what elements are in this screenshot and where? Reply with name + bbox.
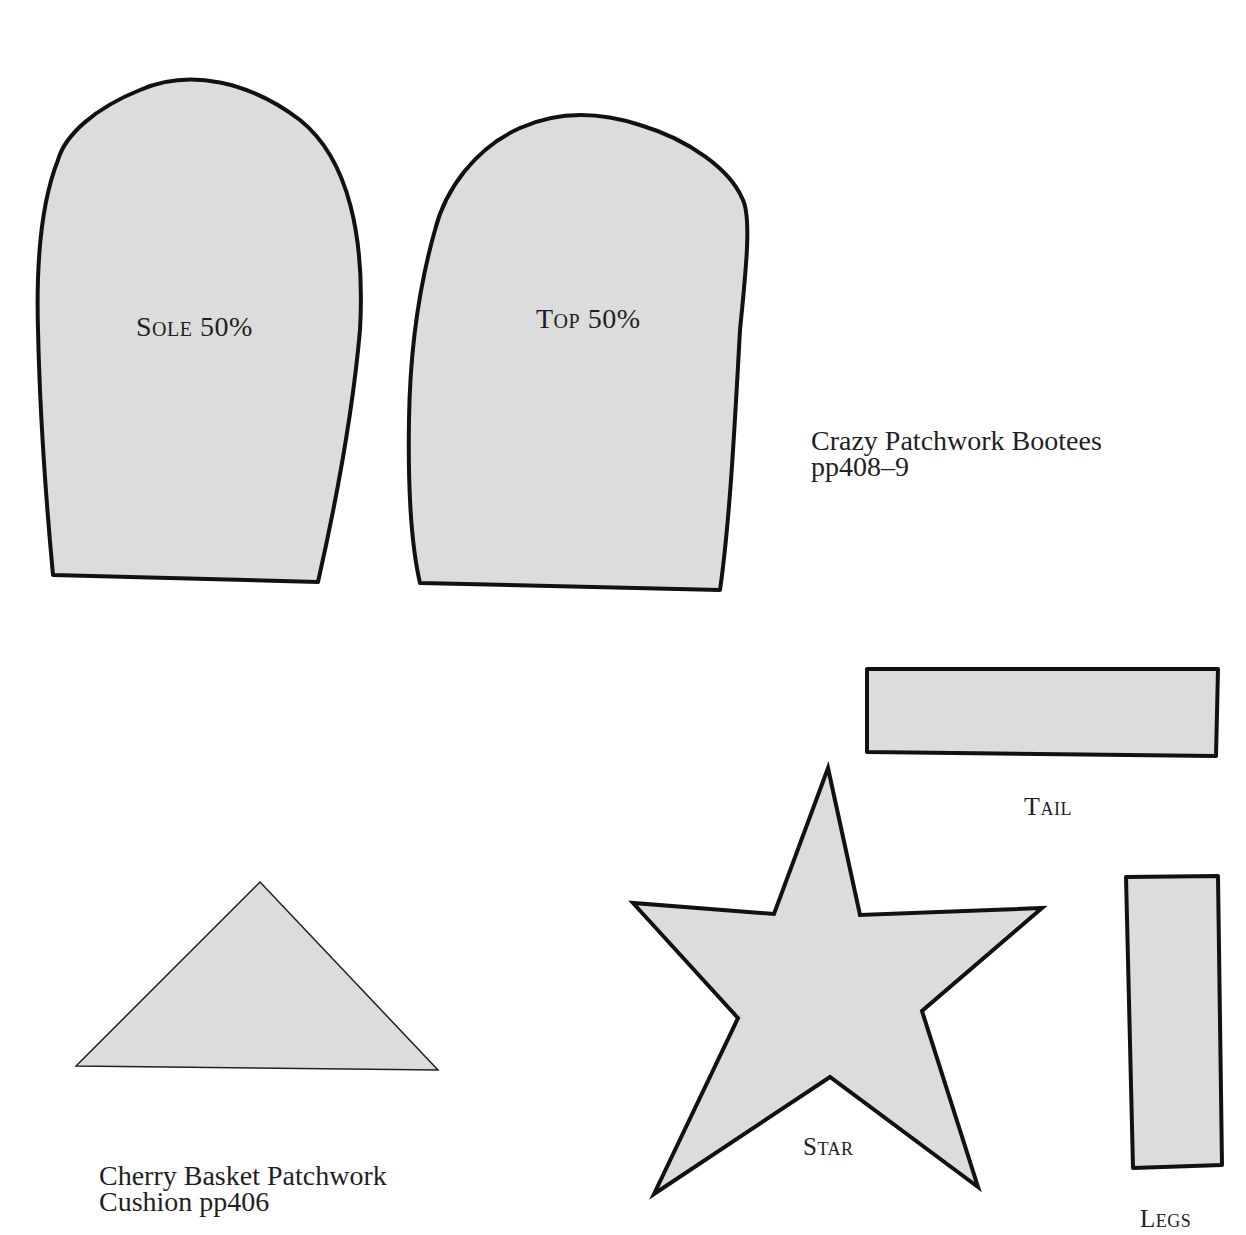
sole-label: Sole 50%	[136, 313, 253, 341]
cushion-caption-pages: Cushion pp406	[99, 1189, 387, 1215]
star-pattern-piece	[633, 768, 1042, 1194]
tail-pattern-piece	[867, 669, 1218, 756]
star-label: Star	[803, 1134, 853, 1159]
cushion-caption: Cherry Basket Patchwork Cushion pp406	[99, 1163, 387, 1215]
legs-pattern-piece	[1126, 876, 1222, 1168]
legs-label: Legs	[1140, 1206, 1191, 1231]
pattern-sheet	[0, 0, 1246, 1235]
bootees-caption-pages: pp408–9	[811, 454, 1102, 480]
top-label: Top 50%	[536, 305, 641, 333]
top-pattern-piece	[409, 115, 748, 590]
bootees-caption: Crazy Patchwork Bootees pp408–9	[811, 428, 1102, 480]
triangle-pattern-piece	[76, 882, 438, 1070]
tail-label: Tail	[1024, 794, 1072, 820]
